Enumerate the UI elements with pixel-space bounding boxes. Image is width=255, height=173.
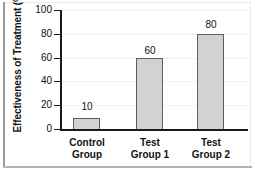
x-category-label-test-group-1: Test Group 1 — [125, 137, 175, 161]
x-category-line-1: Test — [186, 137, 236, 149]
x-category-label-control-group: Control Group — [62, 137, 112, 161]
gridline-100 — [60, 10, 247, 11]
y-tick-label-80: 80 — [26, 29, 52, 39]
y-tick-label-40: 40 — [26, 76, 52, 86]
bar-test-group-1[interactable] — [136, 58, 163, 130]
tick-mark-80 — [54, 34, 60, 35]
y-axis-line — [60, 10, 62, 131]
bar-chart-figure: Effectiveness of Treatment (%) 100 80 60… — [0, 0, 255, 173]
tick-mark-20 — [54, 105, 60, 106]
bar-test-group-2[interactable] — [197, 34, 224, 130]
y-tick-label-0: 0 — [26, 124, 52, 134]
y-tick-label-60: 60 — [26, 53, 52, 63]
frame-left-edge — [3, 2, 5, 168]
x-category-line-2: Group — [62, 149, 112, 161]
x-axis-line — [60, 129, 248, 131]
bar-value-control-group: 10 — [62, 102, 112, 112]
x-category-label-test-group-2: Test Group 2 — [186, 137, 236, 161]
tick-mark-0 — [54, 129, 60, 130]
tick-mark-40 — [54, 81, 60, 82]
x-category-line-1: Test — [125, 137, 175, 149]
y-tick-label-100: 100 — [26, 5, 52, 15]
bar-value-test-group-1: 60 — [125, 46, 175, 56]
tick-mark-60 — [54, 58, 60, 59]
x-category-line-2: Group 2 — [186, 149, 236, 161]
x-category-line-2: Group 1 — [125, 149, 175, 161]
y-tick-label-20: 20 — [26, 100, 52, 110]
bar-value-test-group-2: 80 — [186, 20, 236, 30]
x-category-line-1: Control — [62, 137, 112, 149]
y-tick-label-group: 100 80 60 40 20 0 — [22, 0, 52, 173]
tick-mark-100 — [54, 10, 60, 11]
y-axis-title: Effectiveness of Treatment (%) — [12, 1, 23, 133]
